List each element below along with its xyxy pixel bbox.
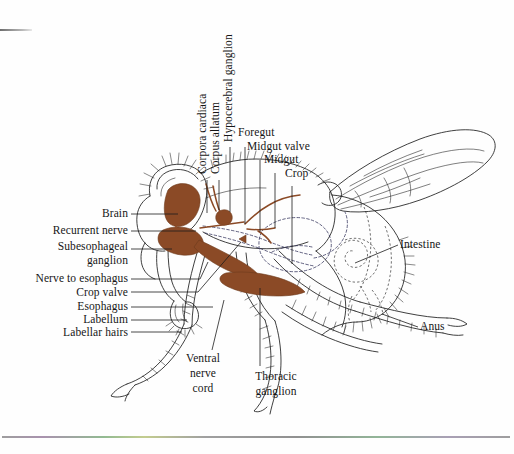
label-brain: Brain [0,207,128,221]
label-corpora-cardiaca: Corpora cardiaca [196,68,210,174]
label-ventral-nerve-cord-line3: cord [173,382,233,396]
scutellum [318,182,341,205]
label-recurrent-nerve: Recurrent nerve [0,224,128,238]
label-esophagus: Esophagus [0,300,128,314]
label-hypocerebral-ganglion: Hypocerebral ganglion [222,34,236,142]
label-corpus-allatum: Corpus allatum [209,75,223,174]
label-anus: Anus [420,320,445,334]
label-labellar-hairs: Labellar hairs [0,326,128,340]
abdomen-outline [316,195,415,335]
digestive-dashed [203,212,383,322]
label-subesophageal-ganglion-line1: Subesophageal [0,240,128,254]
label-crop: Crop [285,167,308,181]
label-foregut: Foregut [238,126,274,140]
label-intestine: Intestine [400,238,441,252]
label-midgut-valve: Midgut valve [247,140,310,154]
wing [330,130,496,212]
label-thoracic-ganglion-line1: Thoracic [238,370,314,384]
scan-artifact-top-tick [0,29,32,31]
proboscis [157,249,202,337]
label-crop-valve: Crop valve [0,286,128,300]
label-nerve-to-esophagus: Nerve to esophagus [0,272,128,286]
label-thoracic-ganglion-line2: ganglion [238,385,314,399]
label-labellum: Labellum [0,313,128,327]
label-subesophageal-ganglion-line2: ganglion [0,254,128,268]
scan-artifact-bottom-rule [2,436,510,438]
label-ventral-nerve-cord-line2: nerve [173,367,233,381]
label-ventral-nerve-cord-line1: Ventral [173,352,233,366]
organs-brown [158,184,305,296]
leader-lines [131,147,418,366]
figure-canvas: .ln {fill:none;stroke:#1d1d1d;stroke-wid… [0,0,514,454]
label-midgut: Midgut [264,153,298,167]
